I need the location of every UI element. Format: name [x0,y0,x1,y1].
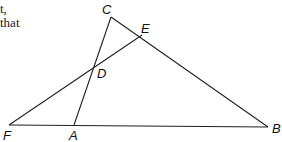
segment-fe [9,35,142,125]
label-c: C [102,2,112,17]
segment-fb [9,125,268,127]
label-d: D [97,66,106,81]
geometry-diagram: C E D F A B [0,0,282,142]
label-b: B [272,121,281,136]
label-f: F [3,128,12,142]
label-e: E [141,21,150,36]
segment-cb [111,17,268,127]
label-a: A [68,128,78,142]
